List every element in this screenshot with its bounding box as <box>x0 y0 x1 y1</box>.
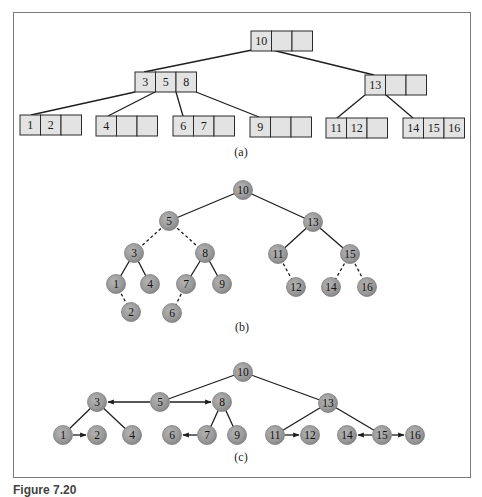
svg-text:12: 12 <box>304 429 316 441</box>
panel-c-linked-tree: 10 3 5 8 1 2 4 6 7 9 13 11 12 14 15 16 (… <box>54 363 425 465</box>
linked-node-10: 10 <box>234 363 253 382</box>
svg-text:10: 10 <box>237 184 249 196</box>
btree-node-3-5-8: 3 5 8 <box>135 72 197 92</box>
svg-text:10: 10 <box>237 366 249 378</box>
key: 16 <box>448 121 460 135</box>
linked-node-9: 9 <box>228 426 247 445</box>
btree-node-13: 13 <box>365 75 427 95</box>
tree-node-6: 6 <box>163 304 182 323</box>
btree-node-root: 10 <box>251 31 313 51</box>
linked-node-15: 15 <box>373 426 392 445</box>
svg-text:2: 2 <box>128 306 134 318</box>
key: 4 <box>103 119 109 133</box>
tree-node-9: 9 <box>213 275 232 294</box>
svg-text:15: 15 <box>376 429 388 441</box>
svg-text:5: 5 <box>157 396 163 408</box>
svg-text:1: 1 <box>113 278 119 290</box>
linked-node-7: 7 <box>198 426 217 445</box>
tree-node-14: 14 <box>322 278 341 297</box>
svg-text:14: 14 <box>341 429 353 441</box>
btree-leaf-1-2: 1 2 <box>20 115 82 135</box>
tree-node-4: 4 <box>141 275 160 294</box>
figure-caption-cutoff: Figure 7.20 <box>13 484 76 496</box>
svg-text:3: 3 <box>94 396 100 408</box>
svg-text:13: 13 <box>322 397 334 409</box>
linked-node-8: 8 <box>213 393 232 412</box>
svg-text:6: 6 <box>169 429 175 441</box>
panel-b-binary-tree: 10 5 3 8 1 4 7 9 2 6 13 11 15 12 14 16 (… <box>107 181 377 335</box>
panel-c-label: (c) <box>234 450 247 464</box>
key: 9 <box>257 120 263 134</box>
key: 6 <box>180 119 186 133</box>
svg-text:9: 9 <box>234 429 240 441</box>
panel-a-label: (a) <box>234 145 247 159</box>
key: 13 <box>369 78 381 92</box>
tree-node-7: 7 <box>177 275 196 294</box>
key: 7 <box>201 119 207 133</box>
panel-b-label: (b) <box>235 320 249 334</box>
tree-node-12: 12 <box>287 278 306 297</box>
panel-a-btree: 10 3 5 8 13 1 2 4 6 7 9 <box>20 31 465 159</box>
linked-node-11: 11 <box>266 426 285 445</box>
key: 14 <box>407 121 419 135</box>
linked-node-2: 2 <box>88 426 107 445</box>
tree-node-8: 8 <box>196 244 215 263</box>
svg-text:8: 8 <box>202 247 208 259</box>
btree-leaf-6-7: 6 7 <box>173 116 235 136</box>
svg-text:4: 4 <box>147 278 153 290</box>
linked-node-13: 13 <box>319 394 338 413</box>
key: 15 <box>428 121 440 135</box>
svg-text:11: 11 <box>272 248 283 260</box>
linked-node-1: 1 <box>54 426 73 445</box>
tree-node-2: 2 <box>122 303 141 322</box>
svg-text:2: 2 <box>94 429 100 441</box>
tree-node-10: 10 <box>234 181 253 200</box>
tree-node-13: 13 <box>304 213 323 232</box>
svg-text:4: 4 <box>129 429 135 441</box>
key: 12 <box>351 121 363 135</box>
tree-node-3: 3 <box>125 244 144 263</box>
tree-node-11: 11 <box>269 245 288 264</box>
svg-text:5: 5 <box>166 215 172 227</box>
linked-tree-edges <box>63 372 404 435</box>
btree-leaf-9: 9 <box>250 117 312 137</box>
linked-node-16: 16 <box>406 426 425 445</box>
svg-text:1: 1 <box>60 429 66 441</box>
linked-node-6: 6 <box>163 426 182 445</box>
linked-node-12: 12 <box>301 426 320 445</box>
tree-node-15: 15 <box>341 245 360 264</box>
svg-text:3: 3 <box>131 247 137 259</box>
svg-text:8: 8 <box>219 396 225 408</box>
linked-node-3: 3 <box>88 393 107 412</box>
tree-node-1: 1 <box>107 275 126 294</box>
svg-text:12: 12 <box>290 281 302 293</box>
linked-node-4: 4 <box>123 426 142 445</box>
tree-node-5: 5 <box>160 212 179 231</box>
key: 5 <box>163 75 169 89</box>
svg-text:15: 15 <box>344 248 356 260</box>
svg-text:14: 14 <box>325 281 337 293</box>
key: 1 <box>27 118 33 132</box>
tree-node-16: 16 <box>358 278 377 297</box>
btree-leaf-11-12: 11 12 <box>326 118 388 138</box>
btree-edges <box>31 50 413 118</box>
svg-text:13: 13 <box>307 216 319 228</box>
svg-text:9: 9 <box>219 278 225 290</box>
linked-node-5: 5 <box>151 393 170 412</box>
key: 3 <box>142 75 148 89</box>
linked-node-14: 14 <box>338 426 357 445</box>
key: 10 <box>255 34 267 48</box>
svg-text:6: 6 <box>169 307 175 319</box>
btree-leaf-4: 4 <box>96 116 158 136</box>
svg-text:7: 7 <box>204 429 210 441</box>
svg-text:16: 16 <box>361 281 373 293</box>
key: 8 <box>183 75 189 89</box>
svg-text:16: 16 <box>409 429 421 441</box>
svg-text:11: 11 <box>269 429 280 441</box>
svg-text:7: 7 <box>183 278 189 290</box>
key: 11 <box>330 121 342 135</box>
btree-leaf-14-15-16: 14 15 16 <box>403 118 465 138</box>
key: 2 <box>48 118 54 132</box>
